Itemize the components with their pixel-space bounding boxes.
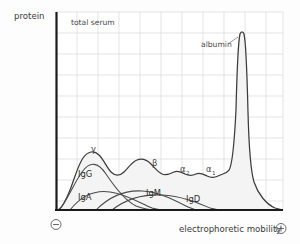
igg-label: IgG (78, 169, 92, 179)
igm-label: IgM (146, 188, 161, 198)
beta-peak-label: β (152, 158, 157, 168)
iga-label: IgA (78, 192, 92, 202)
gamma-peak-label: γ (91, 144, 96, 154)
alpha1-subscript: 1 (212, 170, 216, 176)
albumin-label: albumin (201, 40, 232, 49)
alpha2-subscript: 2 (186, 170, 190, 176)
y-axis-label: protein (14, 11, 45, 21)
x-axis-label: electrophoretic mobility (179, 224, 281, 234)
igd-label: IgD (186, 194, 200, 204)
figure-root: protein electrophoretic mobility total s… (0, 0, 300, 244)
total-serum-label: total serum (71, 18, 115, 27)
serum-electrophoresis-chart: protein electrophoretic mobility total s… (0, 0, 300, 244)
